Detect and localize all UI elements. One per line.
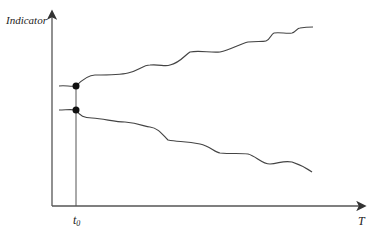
lower-curve [59,110,312,172]
x-axis-label: T [358,214,366,228]
y-axis-label: Indicator [5,14,48,26]
t0-label: t0 [73,213,80,228]
lower-start-point [73,107,80,114]
indicator-diagram: Indicator T t0 [0,0,372,229]
upper-start-point [73,83,80,90]
upper-curve [59,27,313,86]
t0-label-subscript: 0 [76,219,80,228]
